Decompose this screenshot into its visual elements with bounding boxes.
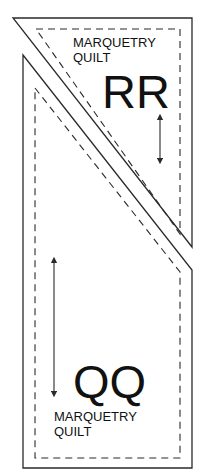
piece-qq-caption-line1: MARQUETRY: [54, 409, 137, 424]
pattern-diagram: MARQUETRY QUILT RR QQ MARQUETRY QUILT: [0, 0, 204, 476]
piece-rr-label: RR: [102, 65, 170, 118]
piece-rr-caption-line1: MARQUETRY: [73, 35, 156, 50]
piece-rr: MARQUETRY QUILT RR: [13, 18, 192, 247]
piece-qq-caption-line2: QUILT: [54, 424, 91, 439]
piece-rr-caption-line2: QUILT: [73, 50, 110, 65]
piece-qq-label: QQ: [73, 355, 146, 408]
